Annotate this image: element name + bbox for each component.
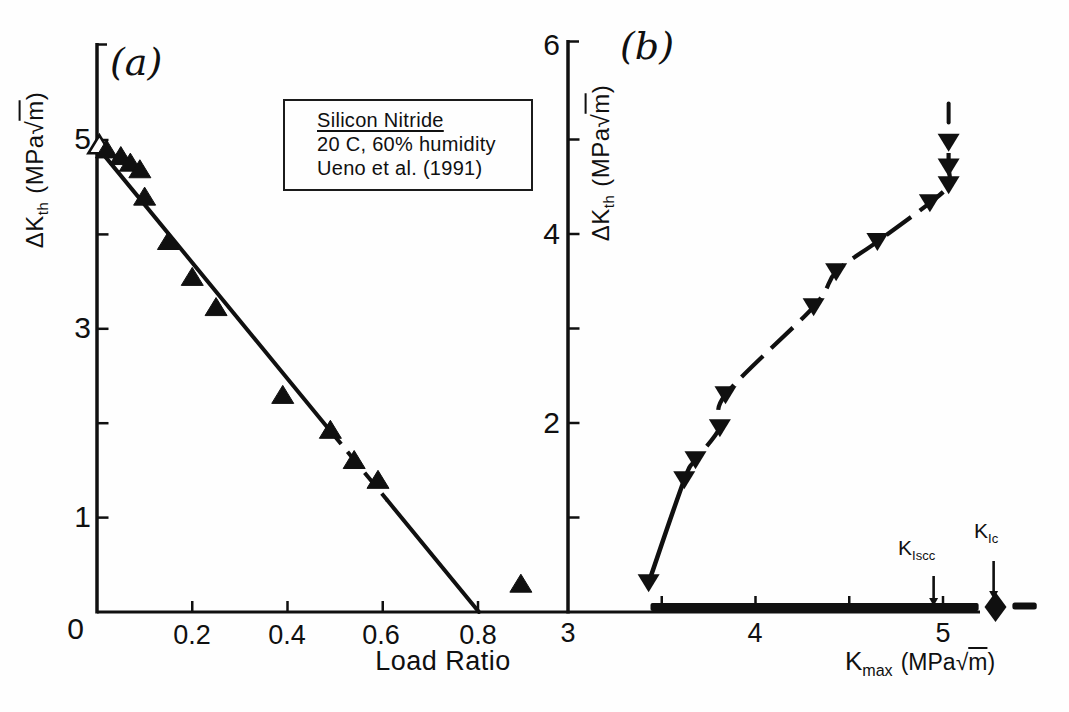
annotation-line-conditions: 20 C, 60% humidity bbox=[317, 132, 525, 156]
b-ytick-label-2: 2 bbox=[524, 406, 560, 440]
figure-canvas bbox=[0, 0, 1069, 712]
radical-sign: √ bbox=[956, 649, 969, 675]
kiscc-subscript: Iscc bbox=[912, 548, 935, 563]
b-ytick-label-6: 6 bbox=[524, 28, 560, 62]
unit-close: ) bbox=[21, 92, 48, 101]
b-xtick-label-4: 4 bbox=[723, 618, 787, 649]
radical-sign: √ bbox=[21, 121, 48, 135]
kmax-k-text: K bbox=[845, 646, 862, 676]
a-ytick-label-1: 1 bbox=[55, 500, 91, 534]
annotation-box: Silicon Nitride 20 C, 60% humidity Ueno … bbox=[283, 99, 533, 191]
kiscc-label: KIscc bbox=[898, 536, 935, 563]
kic-label: KIc bbox=[974, 519, 998, 546]
panel-a-y-axis-label: ΔKth(MPa√m) bbox=[21, 92, 52, 248]
a-xtick-label-0-2: 0.2 bbox=[160, 620, 224, 651]
th-subscript: th bbox=[35, 202, 51, 215]
b-x-axis-label: Kmax(MPa√m) bbox=[820, 646, 1020, 680]
delta-k-text: ΔK bbox=[587, 208, 614, 241]
panel-b-y-axis-label: ΔKth(MPa√m) bbox=[587, 85, 618, 241]
delta-k-text: ΔK bbox=[21, 215, 48, 248]
radicand: m bbox=[587, 93, 614, 114]
b-xtick-label-3: 3 bbox=[536, 618, 600, 649]
annotation-line-material: Silicon Nitride bbox=[317, 108, 525, 132]
a-xtick-label-0-4: 0.4 bbox=[255, 620, 319, 651]
panel-a-label: (a) bbox=[110, 40, 162, 84]
kic-k-text: K bbox=[974, 519, 988, 542]
radicand: m bbox=[968, 649, 987, 675]
figure-root: (a) (b) Silicon Nitride 20 C, 60% humidi… bbox=[0, 0, 1069, 712]
unit-open: (MPa bbox=[587, 127, 614, 186]
unit-close: ) bbox=[587, 85, 614, 94]
unit-open: (MPa bbox=[901, 649, 956, 675]
panel-b-label: (b) bbox=[620, 24, 674, 68]
a-x-axis-label: Load Ratio bbox=[333, 646, 553, 677]
b-xtick-label-5: 5 bbox=[911, 618, 975, 649]
radical-sign: √ bbox=[587, 114, 614, 128]
annotation-line-reference: Ueno et al. (1991) bbox=[317, 156, 525, 180]
b-ytick-label-4: 4 bbox=[524, 217, 560, 251]
kic-subscript: Ic bbox=[988, 531, 998, 546]
kmax-subscript: max bbox=[862, 661, 892, 679]
a-ytick-label-3: 3 bbox=[55, 311, 91, 345]
unit-open: (MPa bbox=[21, 134, 48, 193]
unit-close: ) bbox=[987, 649, 995, 675]
a-ytick-label-5: 5 bbox=[55, 122, 91, 156]
kiscc-k-text: K bbox=[898, 536, 912, 559]
a-origin-label: 0 bbox=[48, 612, 84, 646]
th-subscript: th bbox=[601, 195, 617, 208]
radicand: m bbox=[21, 100, 48, 121]
